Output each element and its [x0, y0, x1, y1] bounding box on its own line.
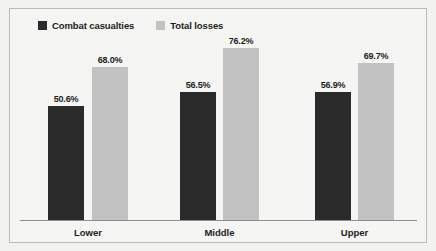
bar-value-label: 69.7% [364, 51, 389, 61]
chart-figure: Combat casualties Total losses 50.6% 68.… [0, 0, 436, 251]
bar-upper-total-losses: 69.7% [358, 63, 394, 221]
bars-layer: 50.6% 68.0% 56.5% 76.2% 56.9% 69.7% [9, 8, 427, 243]
bar-value-label: 76.2% [229, 36, 254, 46]
bar-middle-combat-casualties: 56.5% [180, 92, 216, 221]
plot-area: Combat casualties Total losses 50.6% 68.… [9, 8, 427, 243]
x-tick-label-lower: Lower [74, 227, 102, 238]
bar-value-label: 68.0% [98, 55, 123, 65]
bar-value-label: 56.9% [321, 80, 346, 90]
bar-lower-combat-casualties: 50.6% [48, 106, 84, 221]
x-axis-line [20, 220, 417, 221]
x-tick-label-middle: Middle [204, 227, 234, 238]
bar-lower-total-losses: 68.0% [92, 67, 128, 221]
bar-middle-total-losses: 76.2% [223, 48, 259, 221]
x-tick-label-upper: Upper [341, 227, 368, 238]
bar-value-label: 50.6% [54, 94, 79, 104]
bar-upper-combat-casualties: 56.9% [315, 92, 351, 221]
bar-value-label: 56.5% [186, 80, 211, 90]
